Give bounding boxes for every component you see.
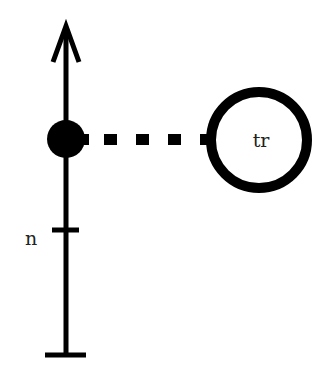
diagram-canvas: tr n [0, 0, 328, 384]
vertex-filled-circle [47, 120, 85, 158]
dashed-connector [82, 134, 210, 145]
ring-node-label: tr [253, 129, 271, 151]
tick-label: n [25, 227, 37, 249]
